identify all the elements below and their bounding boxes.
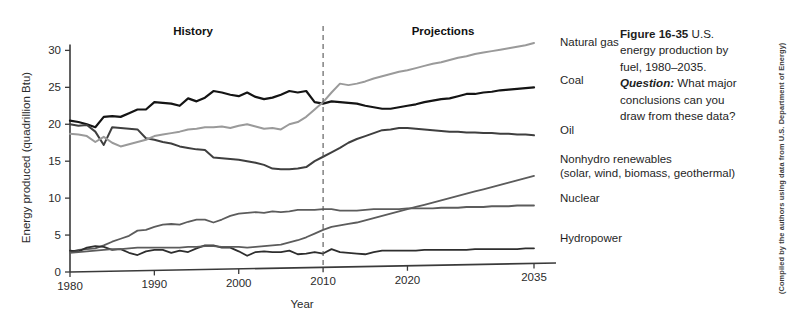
y-tick-label-5: 5 [55, 229, 61, 241]
y-tick-label-20: 20 [48, 118, 61, 130]
y-tick-label-0: 0 [55, 266, 61, 278]
figure-caption: Figure 16-35 U.S. energy production by f… [620, 26, 748, 125]
figure-credit: (Compiled by the authors using data from… [777, 18, 791, 296]
chart-series-group [70, 43, 534, 256]
y-tick-label-30: 30 [48, 44, 61, 56]
figure-16-35: 051015202530198019902000201020202035Year… [0, 0, 793, 315]
series-label-nonhydro-main: Nonhydro renewables [560, 153, 672, 165]
series-label-coal: Coal [560, 73, 584, 87]
y-tick-label-10: 10 [48, 192, 61, 204]
figure-question-label: Question: [620, 76, 674, 89]
series-label-nuclear: Nuclear [560, 191, 600, 205]
series-line-coal [70, 87, 534, 127]
figure-number: Figure 16-35 [620, 27, 688, 40]
x-tick-label-2020: 2020 [395, 274, 421, 286]
chart-axes: 051015202530198019902000201020202035Year… [20, 44, 556, 310]
x-axis-line [70, 263, 556, 272]
y-axis-title: Energy produced (quadrillion Btu) [20, 72, 32, 243]
chart-plot-area: 051015202530198019902000201020202035Year… [0, 0, 560, 315]
x-tick-label-2010: 2010 [310, 275, 336, 287]
series-label-hydropower: Hydropower [560, 231, 622, 245]
y-tick-label-25: 25 [48, 81, 61, 93]
series-label-natural-gas: Natural gas [560, 35, 619, 49]
series-label-nonhydro-renewables: Nonhydro renewables (solar, wind, biomas… [560, 152, 735, 180]
projections-label: Projections [412, 25, 475, 37]
series-label-oil: Oil [560, 123, 574, 137]
history-label: History [173, 25, 213, 37]
series-line-oil [70, 124, 534, 169]
x-tick-label-1980: 1980 [57, 280, 83, 292]
x-tick-label-2035: 2035 [521, 271, 547, 283]
energy-production-line-chart: 051015202530198019902000201020202035Year… [0, 0, 560, 315]
chart-annotations: HistoryProjections [173, 25, 474, 267]
y-tick-label-15: 15 [48, 155, 61, 167]
figure-credit-text: (Compiled by the authors using data from… [777, 43, 786, 294]
x-tick-label-2000: 2000 [226, 277, 252, 289]
series-line-nuclear [70, 206, 534, 253]
x-tick-label-1990: 1990 [142, 278, 168, 290]
series-label-nonhydro-sub: (solar, wind, biomass, geothermal) [560, 166, 735, 180]
series-line-nonhydro-renewables [70, 176, 534, 253]
x-axis-title: Year [290, 298, 313, 310]
